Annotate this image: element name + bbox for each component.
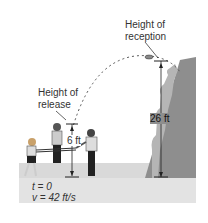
projectile-diagram: Height of reception Height of release 6 … (0, 0, 208, 223)
reception-label-line2: reception (125, 31, 166, 42)
release-label-line1: Height of (38, 87, 78, 98)
release-label-line2: release (38, 99, 71, 110)
release-leader-line (56, 111, 66, 120)
velocity-label: v = 42 ft/s (32, 192, 76, 203)
reception-height-label: 26 ft (150, 113, 169, 124)
time-label: t = 0 (32, 181, 52, 192)
reception-label-line1: Height of (125, 19, 165, 30)
ball-icon (145, 55, 153, 59)
release-height-label: 6 ft (67, 135, 81, 146)
person-middle (52, 123, 62, 163)
